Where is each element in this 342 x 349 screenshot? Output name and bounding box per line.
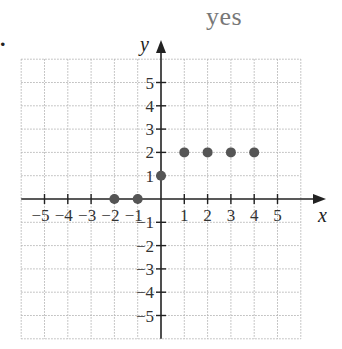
x-tick-label: −2 [101,206,119,225]
coordinate-plane: xy −5−4−3−2−112345−5−4−3−2−112345 [0,0,342,349]
y-tick-label: −1 [136,213,154,232]
x-tick-label: 4 [250,206,259,225]
y-axis-label: y [138,33,149,56]
x-tick-label: 5 [273,206,282,225]
x-tick-label: −4 [55,206,74,225]
y-tick-label: −5 [136,307,154,326]
y-tick-label: 4 [146,97,155,116]
y-tick-label: 2 [146,143,155,162]
y-tick-label: 5 [146,74,155,93]
y-tick-label: −3 [136,260,154,279]
data-point [203,147,213,157]
y-tick-label: 1 [146,167,155,186]
axes: xy [21,33,327,339]
data-point [109,194,119,204]
x-tick-label: 3 [227,206,236,225]
data-point [249,147,259,157]
x-tick-label: −3 [78,206,96,225]
data-point [156,171,166,181]
y-tick-label: −4 [136,283,155,302]
x-tick-label: 1 [180,206,189,225]
x-tick-label: 2 [203,206,212,225]
y-tick-label: −2 [136,237,154,256]
y-axis-arrow-icon [156,40,166,53]
data-point [179,147,189,157]
data-point [133,194,143,204]
x-axis-arrow-icon [313,194,326,204]
x-axis-label: x [317,204,327,226]
y-tick-label: 3 [146,120,155,139]
data-point [226,147,236,157]
x-tick-label: −5 [31,206,49,225]
